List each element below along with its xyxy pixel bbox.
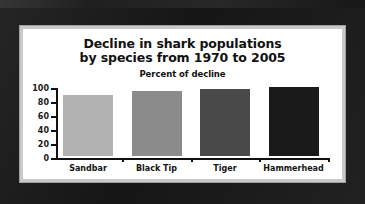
plot-area: 020406080100 SandbarBlack TipTigerHammer… <box>56 88 330 158</box>
y-axis-tick-mark <box>51 116 58 118</box>
y-axis-tick-label: 80 <box>38 98 49 107</box>
y-axis-tick-mark <box>51 144 58 146</box>
bar <box>200 89 250 156</box>
x-axis-category-label: Tiger <box>213 164 236 173</box>
y-axis-tick-label: 40 <box>38 126 49 135</box>
x-axis-tick-mark <box>122 158 124 162</box>
y-axis-line <box>56 88 58 159</box>
y-axis-tick-label: 100 <box>32 84 49 93</box>
y-axis-tick-mark <box>51 130 58 132</box>
chart-title-line-1: Decline in shark populations <box>23 37 342 51</box>
x-axis-tick-mark <box>328 158 330 162</box>
y-axis-tick-mark <box>51 158 58 160</box>
x-axis-category-label: Black Tip <box>136 164 177 173</box>
y-axis-tick-mark <box>51 88 58 90</box>
chart-heading: Decline in shark populations by species … <box>23 37 342 79</box>
x-axis-tick-mark <box>259 158 261 162</box>
bar <box>63 95 113 156</box>
chart-panel: Decline in shark populations by species … <box>23 29 342 179</box>
x-axis-category-label: Sandbar <box>69 164 107 173</box>
chart-title-line-2: by species from 1970 to 2005 <box>23 51 342 65</box>
x-axis-category-label: Hammerhead <box>263 164 323 173</box>
y-axis-tick-mark <box>51 102 58 104</box>
frame-sheen <box>0 0 365 8</box>
x-axis-tick-mark <box>191 158 193 162</box>
y-axis-tick-label: 60 <box>38 112 49 121</box>
chart-screenshot: Decline in shark populations by species … <box>0 0 365 204</box>
bar <box>269 87 319 156</box>
bar <box>132 91 182 156</box>
y-axis-tick-label: 20 <box>38 140 49 149</box>
chart-subtitle: Percent of decline <box>23 69 342 79</box>
x-axis-baseline <box>56 158 330 160</box>
y-axis-tick-label: 0 <box>43 154 49 163</box>
